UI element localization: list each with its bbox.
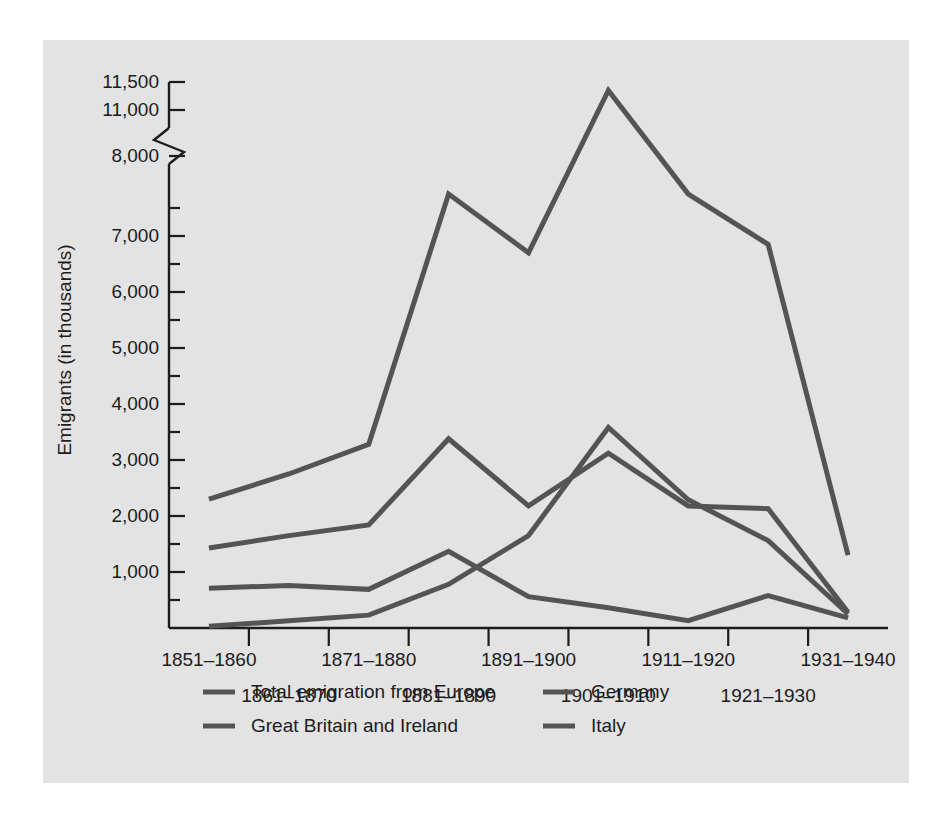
x-tick-label: 1931–1940: [801, 649, 896, 670]
x-tick-label: 1921–1930: [721, 685, 816, 706]
y-tick-label: 11,000: [102, 99, 159, 120]
legend-label: Germany: [591, 681, 670, 702]
y-tick-label: 8,000: [111, 145, 159, 166]
legend-label: Italy: [591, 715, 626, 736]
y-tick-label: 5,000: [111, 337, 159, 358]
y-tick-label: 3,000: [111, 449, 159, 470]
y-tick-label: 2,000: [111, 505, 159, 526]
x-tick-label: 1851–1860: [161, 649, 256, 670]
x-tick-label: 1911–1920: [641, 649, 735, 670]
legend-label: Great Britain and Ireland: [251, 715, 458, 736]
chart-figure: Emigrants (in thousands) 11,50011,0008,0…: [43, 40, 909, 783]
line-chart: Emigrants (in thousands) 11,50011,0008,0…: [43, 40, 909, 783]
y-tick-label: 11,500: [102, 71, 159, 92]
y-tick-label: 1,000: [111, 561, 159, 582]
series-line-germany: [209, 551, 848, 620]
series-line-total-emigration-from-europe: [209, 90, 848, 555]
y-tick-label: 4,000: [111, 393, 159, 414]
y-axis-title: Emigrants (in thousands): [54, 244, 75, 455]
axes: [154, 82, 888, 646]
chart-legend: Total emigration from EuropeGermanyGreat…: [203, 681, 670, 736]
y-tick-label: 7,000: [111, 225, 159, 246]
x-axis-ticks: [249, 628, 808, 646]
series-group: [209, 90, 848, 626]
x-tick-label: 1871–1880: [321, 649, 416, 670]
y-axis-tick-labels: 11,50011,0008,0007,0006,0005,0004,0003,0…: [102, 71, 159, 582]
y-tick-label: 6,000: [111, 281, 159, 302]
y-axis-ticks: [169, 82, 185, 600]
legend-label: Total emigration from Europe: [251, 681, 495, 702]
x-tick-label: 1891–1900: [481, 649, 576, 670]
